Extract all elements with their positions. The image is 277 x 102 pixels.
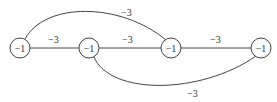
node-n1: −1 [10,38,30,58]
node-n4: −1 [251,38,271,58]
node-label: −1 [256,43,267,54]
edge-label-n2-n3: −3 [122,34,133,45]
edge-n2-n4-arc [94,56,256,85]
edge-label-n1-n3: −3 [121,7,132,18]
edge-label-n3-n4: −3 [210,34,221,45]
edge-label-n2-n4: −3 [187,88,198,99]
node-n3: −1 [161,38,181,58]
node-label: −1 [84,43,95,54]
node-n2: −1 [79,38,99,58]
node-label: −1 [166,43,177,54]
edge-label-n1-n2: −3 [48,34,59,45]
edge-n1-n3-arc [25,11,166,40]
graph-diagram: −3 −3 −3 −3 −3 −1 −1 −1 −1 [0,0,277,102]
node-label: −1 [15,43,26,54]
